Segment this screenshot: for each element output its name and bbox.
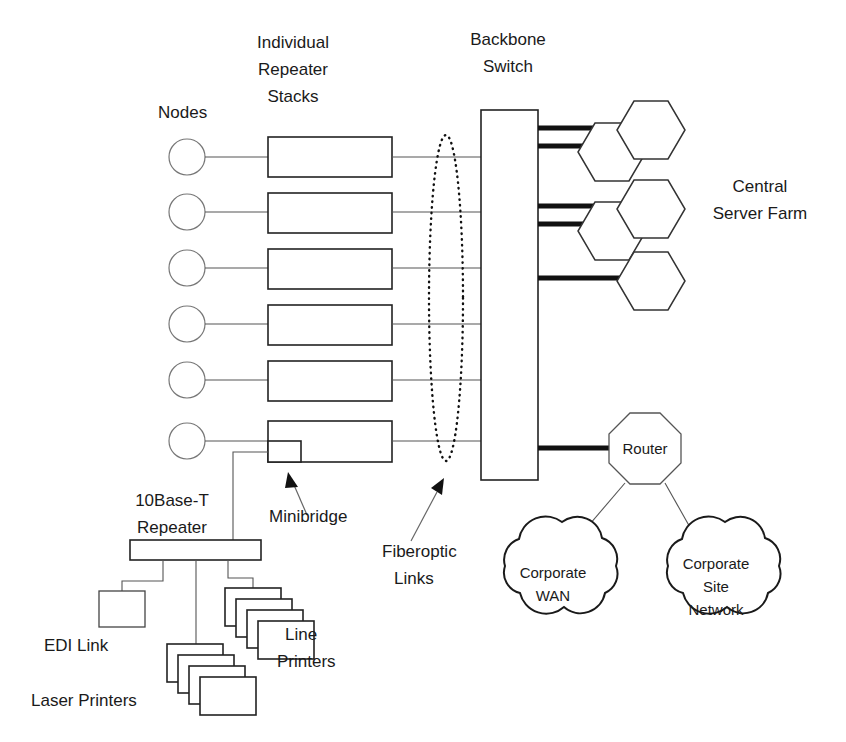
fiberoptic-leader-line	[411, 492, 437, 541]
cloud-site-line2: Site	[703, 578, 729, 595]
minibridge-to-repeater-link	[233, 452, 268, 540]
fiberoptic-annotation: Fiberoptic Links	[382, 478, 457, 588]
fiberoptic-arrowhead	[431, 478, 444, 495]
minibridge-annotation: Minibridge	[269, 472, 347, 526]
node-circle-group	[169, 139, 205, 459]
minibridge-box[interactable]	[268, 441, 301, 462]
network-diagram-canvas: Nodes Individual Repeater Stacks Backbon…	[0, 0, 846, 742]
line-printer-stack[interactable]	[225, 588, 314, 659]
label-central: Central	[733, 177, 788, 196]
repeater-stack-box[interactable]	[268, 249, 392, 289]
repeater-stack-box[interactable]	[268, 361, 392, 401]
repeater-stack-box[interactable]	[268, 137, 392, 177]
label-10baset: 10Base-T	[135, 491, 209, 510]
label-server-farm: Server Farm	[713, 204, 807, 223]
cloud-corporate-wan[interactable]: Corporate WAN	[504, 516, 618, 613]
tenbaset-repeater-bar[interactable]	[130, 540, 261, 560]
label-laser-printers: Laser Printers	[31, 691, 137, 710]
node-circle[interactable]	[169, 362, 205, 398]
downlink-line	[233, 452, 268, 540]
label-switch: Switch	[483, 57, 533, 76]
node-circle[interactable]	[169, 139, 205, 175]
label-nodes: Nodes	[158, 103, 207, 122]
network-topology-svg: Nodes Individual Repeater Stacks Backbon…	[0, 0, 846, 742]
label-edi-link: EDI Link	[44, 636, 109, 655]
repeater-stack-box[interactable]	[268, 305, 392, 345]
edi-link-box[interactable]	[99, 591, 145, 627]
node-circle[interactable]	[169, 306, 205, 342]
label-10baset-repeater: Repeater	[137, 518, 207, 537]
backbone-switch-box[interactable]	[481, 110, 538, 480]
printer-sheet	[200, 677, 256, 715]
node-circle[interactable]	[169, 423, 205, 459]
minibridge-arrowhead	[285, 472, 298, 488]
label-minibridge: Minibridge	[269, 507, 347, 526]
laser-printer-stack[interactable]	[167, 644, 256, 715]
label-repeater: Repeater	[258, 60, 328, 79]
label-individual: Individual	[257, 33, 329, 52]
drop-edi	[122, 560, 163, 591]
cloud-wan-line1: Corporate	[520, 564, 587, 581]
label-fiberoptic: Fiberoptic	[382, 542, 457, 561]
node-circle[interactable]	[169, 194, 205, 230]
repeater-stack-box[interactable]	[268, 193, 392, 233]
server-hex-group-1	[578, 101, 685, 181]
cloud-corporate-site-network[interactable]: Corporate Site Network	[667, 516, 781, 618]
label-stacks: Stacks	[267, 87, 318, 106]
fiberoptic-links-ellipse	[429, 135, 463, 461]
repeater-to-switch-links	[392, 157, 481, 441]
label-backbone: Backbone	[470, 30, 546, 49]
cloud-site-line3: Network	[688, 601, 744, 618]
cloud-site-line1: Corporate	[683, 555, 750, 572]
repeater-stack-group	[268, 137, 392, 462]
router-label: Router	[622, 440, 667, 457]
label-links: Links	[394, 569, 434, 588]
server-hex-group-2	[578, 180, 685, 260]
label-printers: Printers	[277, 652, 336, 671]
label-line: Line	[285, 625, 317, 644]
node-to-repeater-links	[205, 157, 268, 441]
drop-line-printers	[228, 560, 253, 588]
cloud-wan-line2: WAN	[536, 587, 570, 604]
node-circle[interactable]	[169, 250, 205, 286]
